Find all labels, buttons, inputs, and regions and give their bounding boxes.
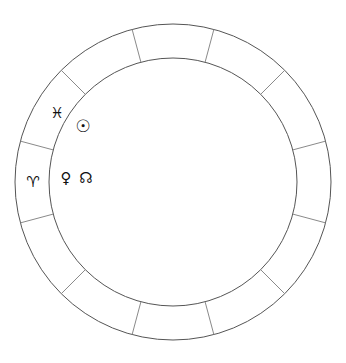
sector-divider	[61, 270, 85, 294]
sector-divider	[20, 214, 53, 223]
astrology-chart-wheel: ♓♈ ☉♀☊	[0, 0, 346, 363]
sun-glyph: ☉	[75, 118, 90, 135]
sector-divider	[20, 141, 53, 150]
wheel-svg	[0, 0, 346, 363]
sector-divider	[293, 141, 326, 150]
aries-glyph: ♈	[26, 175, 39, 190]
venus-glyph: ♀	[61, 171, 72, 186]
north-node-glyph: ☊	[79, 171, 92, 186]
sector-divider	[205, 29, 214, 62]
sector-divider	[293, 214, 326, 223]
pisces-glyph: ♓	[50, 106, 63, 121]
sector-divider	[205, 302, 214, 335]
sector-divider	[132, 29, 141, 62]
sector-divider	[261, 270, 285, 294]
sector-divider	[261, 70, 285, 94]
sector-divider	[132, 302, 141, 335]
sector-divider	[61, 70, 85, 94]
